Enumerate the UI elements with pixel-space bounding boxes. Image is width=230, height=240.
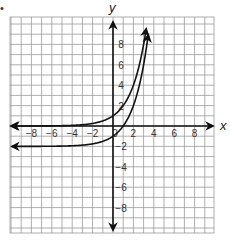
y-tick-label: −6 <box>115 182 127 193</box>
y-tick-label: −2 <box>115 141 127 152</box>
y-tick-label: 8 <box>118 39 124 50</box>
y-axis-label: y <box>108 0 117 15</box>
x-tick-label: 6 <box>171 128 177 139</box>
x-tick-label: −6 <box>46 128 58 139</box>
y-tick-label: −8 <box>115 203 127 214</box>
x-tick-label: 8 <box>192 128 198 139</box>
y-tick-label: 4 <box>118 80 124 91</box>
exponential-graph: xy−8−6−4−2024688642−2−4−6−8 <box>0 0 230 240</box>
curve-upper <box>12 29 146 126</box>
x-axis-label: x <box>219 118 227 133</box>
x-tick-label: −8 <box>26 128 38 139</box>
x-tick-label: −4 <box>66 128 78 139</box>
y-tick-label: −4 <box>115 162 127 173</box>
x-tick-label: 4 <box>151 128 157 139</box>
x-tick-label: 2 <box>131 128 137 139</box>
x-tick-label: −2 <box>87 128 99 139</box>
y-tick-label: 6 <box>118 60 124 71</box>
grid-border <box>10 17 214 233</box>
